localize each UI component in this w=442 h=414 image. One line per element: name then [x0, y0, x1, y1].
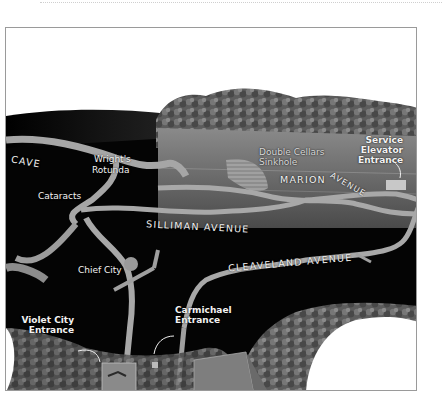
label-marion: MARION [280, 175, 326, 185]
violet-city-entrance-block [102, 363, 136, 391]
label-double-cellars-2: Sinkhole [259, 158, 297, 167]
label-chief-city: Chief City [78, 266, 122, 275]
label-wrights-rotunda-2: Rotunda [92, 166, 130, 175]
top-dotted-rule [40, 2, 442, 3]
cave-map-frame: CAVE Wright's Rotunda Cataracts Double C… [5, 27, 417, 391]
label-carmichael-entrance: Entrance [175, 316, 220, 325]
cave-map-illustration [6, 28, 417, 391]
service-building-icon [386, 180, 406, 190]
label-cataracts: Cataracts [38, 192, 81, 201]
chief-city-chamber [124, 257, 138, 271]
carmichael-entrance-icon [152, 362, 158, 368]
label-wrights-rotunda-1: Wright's [94, 155, 131, 164]
label-violet-city-entrance: Entrance [20, 326, 74, 335]
label-service-entrance: Entrance [358, 156, 403, 165]
